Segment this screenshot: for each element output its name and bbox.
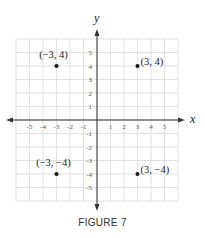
x-tick-label: -5 bbox=[27, 123, 33, 131]
x-tick-label: -4 bbox=[40, 123, 46, 131]
x-axis-right-arrow-icon bbox=[178, 118, 185, 123]
y-tick-label: 5 bbox=[89, 49, 93, 57]
y-tick-label: 2 bbox=[89, 90, 93, 98]
x-tick-label: 4 bbox=[149, 123, 153, 131]
y-tick-label: -2 bbox=[86, 144, 92, 152]
x-tick-label: -3 bbox=[54, 123, 60, 131]
y-tick-label: 3 bbox=[89, 76, 93, 84]
x-tick-label: 5 bbox=[163, 123, 167, 131]
x-tick-label: 3 bbox=[136, 123, 140, 131]
x-tick-label: 2 bbox=[122, 123, 126, 131]
data-point bbox=[55, 172, 59, 176]
data-point bbox=[55, 64, 59, 68]
x-axis-label: x bbox=[189, 112, 196, 126]
x-axis-left-arrow-icon bbox=[6, 118, 13, 123]
point-label: (3, 4) bbox=[141, 56, 164, 68]
data-point bbox=[136, 64, 140, 68]
data-point bbox=[136, 172, 140, 176]
x-tick-label: -2 bbox=[67, 123, 73, 131]
y-tick-label: -3 bbox=[86, 157, 92, 165]
point-label: (−3, 4) bbox=[39, 49, 68, 61]
y-axis-label: y bbox=[93, 11, 100, 25]
y-tick-label: -1 bbox=[86, 130, 92, 138]
y-tick-label: -4 bbox=[86, 171, 92, 179]
y-tick-label: 1 bbox=[89, 103, 93, 111]
coordinate-plane: xy-5-4-3-2-11234554321-1-2-3-4-5(−3, 4)(… bbox=[0, 0, 205, 238]
y-axis-down-arrow-icon bbox=[95, 204, 100, 211]
figure-caption: FIGURE 7 bbox=[0, 217, 205, 228]
point-label: (3, −4) bbox=[141, 164, 170, 176]
x-tick-label: 1 bbox=[109, 123, 113, 131]
y-tick-label: 4 bbox=[89, 63, 93, 71]
point-label: (−3, −4) bbox=[36, 157, 71, 169]
y-axis-up-arrow-icon bbox=[95, 29, 100, 36]
y-tick-label: -5 bbox=[86, 184, 92, 192]
